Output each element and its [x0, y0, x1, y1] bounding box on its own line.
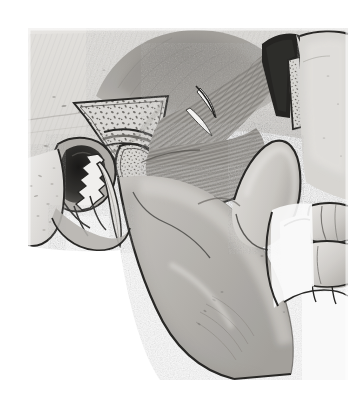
illustration-body	[0, 0, 362, 409]
anatomical-figure: Sagittal section of the temporomandibula…	[0, 0, 362, 409]
tmj-illustration-canvas: Sagittal section of the temporomandibula…	[0, 0, 362, 409]
